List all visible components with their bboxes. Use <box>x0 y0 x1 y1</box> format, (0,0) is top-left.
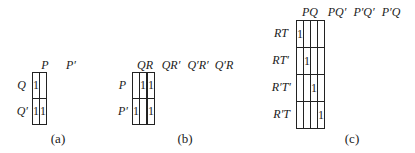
cell <box>318 21 325 48</box>
cell: 1 <box>133 99 140 125</box>
cell: 1 <box>311 75 318 102</box>
cell: 1 <box>297 21 304 48</box>
cell: 1 <box>140 73 147 99</box>
cell: 1 <box>148 73 155 99</box>
cell <box>40 73 47 99</box>
cell: 1 <box>40 99 47 125</box>
col-label: PQ′ <box>328 5 347 20</box>
row-label: Q <box>17 78 26 93</box>
caption: (c) <box>345 131 359 147</box>
cell <box>140 99 147 125</box>
cell <box>297 102 304 129</box>
cell <box>304 102 311 129</box>
cell: 1 <box>304 48 311 75</box>
row-label: Q′ <box>17 104 28 119</box>
cell <box>311 21 318 48</box>
cell <box>311 102 318 129</box>
col-label: Q′R <box>215 58 234 73</box>
row-label: R′T <box>273 107 290 122</box>
kmap-grid: 1 1 1 <box>32 72 47 125</box>
row-label: RT′ <box>272 53 289 68</box>
cell: 1 <box>148 99 155 125</box>
kmap-grid: 1 1 1 1 <box>132 72 155 125</box>
col-label: P′Q <box>382 5 401 20</box>
cell: 1 <box>33 99 40 125</box>
cell: 1 <box>318 102 325 129</box>
col-label: P′Q′ <box>353 5 374 20</box>
col-label: PQ <box>302 5 318 20</box>
cell <box>133 73 140 99</box>
row-label: RT <box>274 26 288 41</box>
caption: (b) <box>177 131 192 147</box>
cell <box>318 48 325 75</box>
row-label: P <box>119 78 126 93</box>
caption: (a) <box>51 131 65 147</box>
col-label: P′ <box>66 58 76 73</box>
row-label: R′T′ <box>272 80 291 95</box>
col-label: Q′R′ <box>187 58 208 73</box>
cell <box>318 75 325 102</box>
col-label: QR′ <box>162 58 181 73</box>
col-label: P <box>41 58 48 73</box>
cell <box>311 48 318 75</box>
row-label: P′ <box>118 104 128 119</box>
cell: 1 <box>33 73 40 99</box>
cell <box>304 21 311 48</box>
cell <box>297 48 304 75</box>
col-label: QR <box>137 58 153 73</box>
kmap-grid: 1 1 1 1 <box>296 20 325 129</box>
cell <box>304 75 311 102</box>
cell <box>297 75 304 102</box>
